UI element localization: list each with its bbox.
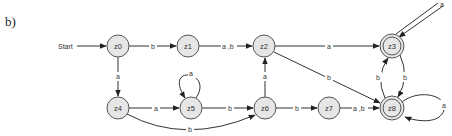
edge-z6-z2: a xyxy=(261,58,269,97)
svg-text:z6: z6 xyxy=(261,104,269,113)
svg-text:z8: z8 xyxy=(388,104,396,113)
state-z8-accepting: z8 xyxy=(380,96,404,120)
svg-text:z4: z4 xyxy=(114,104,122,113)
svg-text:z1: z1 xyxy=(184,42,192,51)
state-z4: z4 xyxy=(107,97,129,119)
edge-z8-loop: a xyxy=(402,95,448,121)
svg-text:z2: z2 xyxy=(260,42,268,51)
svg-text:a: a xyxy=(327,43,331,50)
edge-z6-z7: b xyxy=(276,103,317,113)
state-z2: z2 xyxy=(253,35,275,57)
svg-text:a: a xyxy=(442,102,446,109)
edge-z8-z3: b xyxy=(374,58,388,98)
edge-z0-z4: a xyxy=(114,57,122,96)
svg-text:b: b xyxy=(188,126,192,133)
edge-z5-z6: b xyxy=(202,103,253,113)
state-z7: z7 xyxy=(318,97,340,119)
svg-text:b: b xyxy=(376,74,380,81)
svg-text:a: a xyxy=(189,70,193,77)
svg-text:a: a xyxy=(263,73,267,80)
svg-text:a ,b: a ,b xyxy=(353,105,365,112)
svg-text:b: b xyxy=(295,105,299,112)
svg-text:a: a xyxy=(154,105,158,112)
svg-text:z3: z3 xyxy=(388,42,396,51)
start-arrow: Start xyxy=(58,43,106,50)
svg-text:b: b xyxy=(327,74,331,81)
edge-z2-z8: b xyxy=(274,52,380,103)
svg-text:z0: z0 xyxy=(114,42,122,51)
state-z5: z5 xyxy=(180,97,202,119)
edge-z7-z8: a ,b xyxy=(340,103,379,113)
edge-z0-z1: b xyxy=(129,41,176,51)
state-z3-accepting: z3 xyxy=(380,34,404,58)
state-z1: z1 xyxy=(177,35,199,57)
edge-z3-loop: a xyxy=(396,1,444,37)
svg-text:a ,b: a ,b xyxy=(222,43,234,50)
svg-text:z5: z5 xyxy=(187,104,195,113)
svg-text:z7: z7 xyxy=(325,104,333,113)
edge-z1-z2: a ,b xyxy=(199,41,252,51)
svg-text:b: b xyxy=(228,105,232,112)
automaton-diagram: Start b a a ,b a b a b xyxy=(0,0,452,136)
state-z0: z0 xyxy=(107,35,129,57)
svg-text:b: b xyxy=(151,43,155,50)
svg-text:a: a xyxy=(116,73,120,80)
state-z6: z6 xyxy=(254,97,276,119)
edge-z4-z5: a xyxy=(129,103,179,113)
edge-z2-z3: a xyxy=(275,41,379,51)
start-label: Start xyxy=(58,43,73,50)
edge-z3-z8: b xyxy=(398,55,410,97)
svg-text:a: a xyxy=(440,1,444,8)
edge-z5-loop: a xyxy=(179,68,200,98)
svg-text:b: b xyxy=(403,74,407,81)
